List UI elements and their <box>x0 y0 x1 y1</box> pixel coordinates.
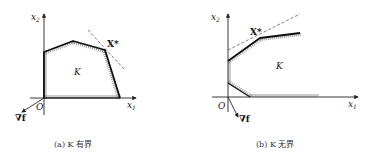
panel-b-caption: (b) K 无界 <box>256 140 294 149</box>
figure-canvas: x2 x1 O K X* ∇f (a) K 有界 x2 x1 O K X* ∇f… <box>0 0 369 159</box>
panel-a-optimum-label: X* <box>107 39 119 49</box>
panel-a-caption: (a) K 有界 <box>54 139 92 149</box>
panel-a-bounded: x2 x1 O K X* ∇f (a) K 有界 <box>15 12 136 149</box>
panel-b-origin-label: O <box>218 101 226 111</box>
panel-b-unbounded: x2 x1 O K X* ∇f (b) K 无界 <box>211 12 358 149</box>
panel-a-x1-label: x1 <box>127 100 136 111</box>
panel-a-region-boundary <box>44 41 120 98</box>
panel-a-origin-label: O <box>36 102 44 112</box>
panel-b-gradient-label: ∇f <box>239 114 251 124</box>
panel-b-objective-level-line <box>228 14 300 50</box>
panel-b-x1-label: x1 <box>348 99 357 110</box>
panel-a-region-label: K <box>73 67 82 77</box>
panel-b-lower-boundary <box>228 83 250 97</box>
panel-b-region-label: K <box>275 61 284 71</box>
panel-a-gradient-label: ∇f <box>15 113 27 123</box>
panel-a-region-hatching <box>44 41 120 99</box>
panel-a-x2-label: x2 <box>31 12 40 23</box>
panel-b-upper-boundary <box>228 33 300 61</box>
panel-b-region-hatching <box>228 33 318 97</box>
panel-b-optimum-label: X* <box>250 27 262 37</box>
panel-b-x2-label: x2 <box>211 12 220 23</box>
panel-b-gradient-arrow <box>228 97 238 117</box>
